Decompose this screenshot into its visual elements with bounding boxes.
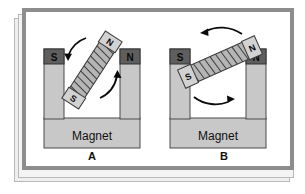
rotation-arrow-bottom-b-path (194, 97, 228, 104)
figure-frame: S N Magnet (22, 8, 294, 170)
rotation-arrow-bottom-b-head (227, 96, 235, 104)
magnet-body-label-a: Magnet (72, 129, 113, 143)
south-pole-label-b: S (177, 52, 184, 63)
panel-b: S N Magnet (158, 12, 290, 166)
physics-figure: S N Magnet (0, 0, 305, 194)
rotation-arrow-right-a-path (100, 76, 117, 98)
rotation-arrow-top-b-path (206, 28, 242, 34)
rotation-arrow-left-a (64, 38, 86, 61)
magnet-body-label-b: Magnet (198, 129, 239, 143)
rotation-arrow-right-a (100, 70, 122, 98)
panel-a-caption: A (26, 150, 158, 162)
figure-canvas: S N Magnet (26, 12, 290, 166)
panel-a-drawing: S N Magnet (26, 12, 158, 166)
rotation-arrow-bottom-b (194, 96, 235, 105)
panel-a: S N Magnet (26, 12, 158, 166)
south-pole-label-a: S (51, 52, 58, 63)
rotation-arrow-left-a-path (68, 38, 86, 56)
panel-b-drawing: S N Magnet (158, 12, 290, 166)
rotation-arrow-top-b (200, 28, 242, 36)
solenoid-coil-a: N S (62, 31, 122, 109)
north-pole-label-a: N (126, 52, 133, 63)
rotation-arrow-top-b-head (200, 29, 209, 37)
panel-b-caption: B (158, 150, 290, 162)
rotation-arrow-left-a-head (64, 54, 72, 62)
